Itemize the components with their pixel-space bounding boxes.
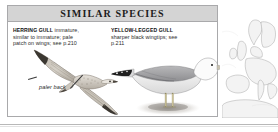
panel-header-bar: SIMILAR SPECIES [8, 6, 217, 22]
europe-range-map [222, 18, 278, 118]
similar-species-panel: SIMILAR SPECIES HERRING GULL immature, s… [7, 5, 218, 117]
bottom-divider-rule [0, 124, 278, 125]
annotation-paler-back: paler back [39, 84, 66, 90]
species-name-herring-gull: HERRING GULL [13, 27, 53, 33]
standing-gull-illustration [108, 38, 220, 116]
panel-title: SIMILAR SPECIES [8, 6, 217, 21]
bottom-divider-rule-secondary [0, 126, 278, 127]
species-name-yellow-legged-gull: YELLOW-LEGGED GULL [111, 27, 173, 33]
flying-gull-illustration [32, 34, 118, 116]
